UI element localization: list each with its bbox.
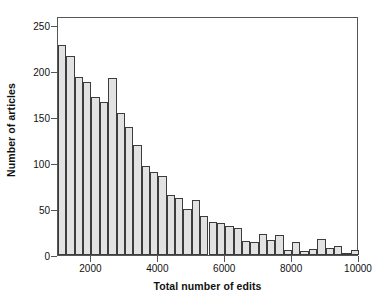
histogram-bars [58,18,357,255]
histogram-bar [234,228,242,255]
histogram-bar [100,102,108,255]
histogram-bar [142,166,150,255]
histogram-bar [200,216,208,255]
histogram-bar [150,172,158,255]
histogram-bar [342,253,350,255]
x-axis-tick-mark [224,256,225,262]
x-axis-tick-label: 6000 [213,263,235,274]
y-axis-tick-label: 100 [33,159,50,170]
histogram-bar [351,250,359,255]
x-axis-tick-mark [291,256,292,262]
x-axis-tick-mark [157,256,158,262]
x-axis-title: Total number of edits [57,280,358,292]
histogram-bar [326,248,334,255]
histogram-bar [192,200,200,255]
y-axis-tick-label: 0 [44,251,50,262]
histogram-bar [309,249,317,255]
histogram-bar [91,97,99,255]
x-axis-tick-mark [358,256,359,262]
histogram-bar [58,45,66,255]
histogram-bar [83,82,91,255]
histogram-bar [66,56,74,255]
histogram-bar [267,240,275,255]
histogram-bar [242,241,250,255]
histogram-bar [133,145,141,255]
histogram-figure: Number of articles 050100150200250 20004… [0,0,386,307]
histogram-bar [259,234,267,255]
histogram-bar [158,176,166,255]
histogram-bar [108,78,116,255]
histogram-bar [317,239,325,255]
histogram-bar [75,77,83,255]
y-axis-title: Number of articles [0,0,22,260]
y-axis-tick-labels: 050100150200250 [20,17,50,256]
y-axis-title-text: Number of articles [5,83,17,177]
histogram-bar [292,242,300,255]
plot-area [57,17,358,256]
x-axis-tick-label: 4000 [146,263,168,274]
x-axis-tick-label: 2000 [79,263,101,274]
histogram-bar [284,250,292,256]
histogram-bar [275,235,283,255]
histogram-bar [175,198,183,255]
histogram-bar [300,251,308,255]
y-axis-tick-label: 50 [39,205,50,216]
histogram-bar [183,209,191,255]
histogram-bar [125,127,133,255]
x-axis-tick-label: 10000 [344,263,372,274]
x-axis-tick-label: 8000 [280,263,302,274]
y-axis-tick-label: 200 [33,67,50,78]
histogram-bar [250,242,258,255]
y-axis-tick-label: 150 [33,113,50,124]
histogram-bar [225,226,233,255]
x-axis-tick-mark [90,256,91,262]
histogram-bar [334,246,342,255]
histogram-bar [117,113,125,255]
y-axis-tick-label: 250 [33,21,50,32]
histogram-bar [209,222,217,255]
histogram-bar [167,195,175,255]
histogram-bar [217,223,225,255]
